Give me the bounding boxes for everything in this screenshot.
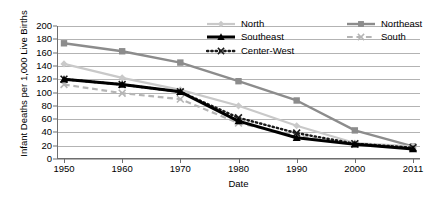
legend-label: Center-West <box>241 46 294 56</box>
legend-swatch-icon <box>206 31 236 43</box>
legend-label: Northeast <box>381 19 422 29</box>
y-tick-label: 100 <box>26 88 52 98</box>
data-point-square <box>177 59 183 65</box>
y-tick-label: 120 <box>26 74 52 84</box>
legend-swatch-icon <box>206 18 236 30</box>
legend-item-south[interactable]: South <box>346 31 406 44</box>
data-point-diamond <box>235 102 242 109</box>
y-tickmark <box>53 79 57 80</box>
series-southeast <box>60 75 417 152</box>
x-tick-label: 2000 <box>344 163 365 174</box>
x-tick-label: 1970 <box>170 163 191 174</box>
y-tickmark <box>53 92 57 93</box>
data-point-square <box>61 40 67 46</box>
data-point-square <box>352 127 358 133</box>
y-tick-label: 20 <box>26 141 52 151</box>
legend-item-southeast[interactable]: Southeast <box>206 31 284 44</box>
y-tickmark <box>53 159 57 160</box>
y-tick-label: 140 <box>26 61 52 71</box>
x-tick-label: 1950 <box>53 163 74 174</box>
x-axis-tick-labels: 1950196019701980199020002011 <box>57 163 420 177</box>
series-center-west <box>61 76 417 151</box>
y-tick-label: 200 <box>26 21 52 31</box>
y-tickmark <box>53 52 57 53</box>
y-tick-label: 60 <box>26 114 52 124</box>
series-south <box>61 81 417 152</box>
y-tick-label: 40 <box>26 128 52 138</box>
x-axis-title: Date <box>57 178 420 189</box>
legend-item-center-west[interactable]: Center-West <box>206 44 294 57</box>
x-tick-label: 1990 <box>286 163 307 174</box>
series-north <box>60 60 416 150</box>
data-point-square <box>293 97 299 103</box>
data-point-square <box>119 48 125 54</box>
y-tickmark <box>53 39 57 40</box>
x-tick-label: 1980 <box>228 163 249 174</box>
legend-swatch-icon <box>346 18 376 30</box>
legend-swatch-icon <box>206 45 236 57</box>
data-point-square <box>235 78 241 84</box>
data-point-diamond <box>119 74 126 81</box>
x-tick-label: 1960 <box>112 163 133 174</box>
y-axis-tick-labels: 020406080100120140160180200 <box>24 0 52 211</box>
data-point-diamond <box>293 122 300 129</box>
data-point-square <box>358 21 364 27</box>
legend-swatch-icon <box>346 31 376 43</box>
data-point-diamond <box>218 20 225 27</box>
y-tick-label: 80 <box>26 101 52 111</box>
x-tick-label: 2011 <box>403 163 423 174</box>
legend-item-north[interactable]: North <box>206 17 264 30</box>
y-tickmark <box>53 119 57 120</box>
data-point-diamond <box>60 60 67 67</box>
legend-item-northeast[interactable]: Northeast <box>346 17 422 30</box>
y-tick-label: 180 <box>26 35 52 45</box>
legend-label: Southeast <box>241 32 284 42</box>
legend-label: South <box>381 32 406 42</box>
y-tickmark <box>53 132 57 133</box>
y-tickmark <box>53 105 57 106</box>
chart-legend: NorthNortheastSoutheastSouthCenter-West <box>196 17 428 59</box>
y-tickmark <box>53 145 57 146</box>
legend-label: North <box>241 19 264 29</box>
y-tick-label: 0 <box>26 154 52 164</box>
infant-mortality-line-chart: Infant Deaths per 1,000 Live Births 0204… <box>0 0 433 211</box>
y-tickmark <box>53 26 57 27</box>
y-tickmark <box>53 65 57 66</box>
y-tick-label: 160 <box>26 48 52 58</box>
